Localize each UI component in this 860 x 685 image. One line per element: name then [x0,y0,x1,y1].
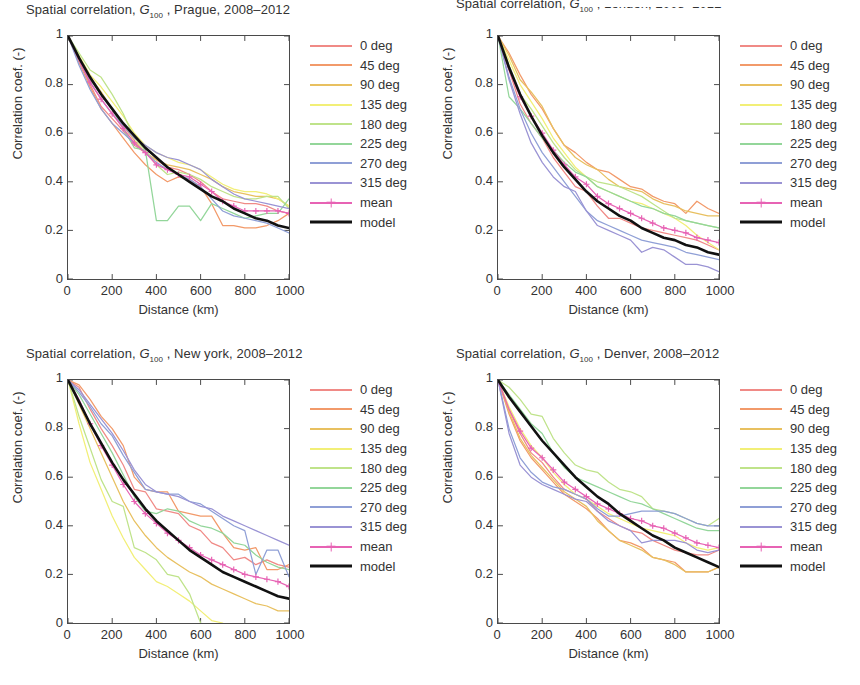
legend-swatch-icon [310,59,352,71]
chart-panel-prague: Spatial correlation, G100 , Prague, 2008… [0,0,430,342]
legend-item-270-deg[interactable]: 270 deg [310,154,430,174]
legend-item-mean[interactable]: mean [740,193,860,213]
legend-label: model [790,216,825,229]
legend-item-225-deg[interactable]: 225 deg [310,134,430,154]
x-tick-label: 1000 [276,627,305,642]
legend-label: 135 deg [360,442,407,455]
legend-swatch-icon [740,59,782,71]
legend-item-0-deg[interactable]: 0 deg [740,36,860,56]
legend-label: model [360,560,395,573]
legend-item-315-deg[interactable]: 315 deg [740,173,860,193]
legend-label: 315 deg [360,176,407,189]
y-tick-label: 0.8 [23,419,63,434]
legend-swatch-icon [740,462,782,474]
title-symbol: G [569,0,579,11]
x-tick-label: 0 [63,283,70,298]
legend-item-225-deg[interactable]: 225 deg [740,134,860,154]
legend-item-45-deg[interactable]: 45 deg [310,400,430,420]
legend-label: 0 deg [790,39,823,52]
legend-swatch-icon [310,521,352,533]
y-tick-label: 0.2 [23,222,63,237]
legend-swatch-icon [740,384,782,396]
x-tick-label: 600 [190,627,212,642]
legend-swatch-icon [310,482,352,494]
legend-item-135-deg[interactable]: 135 deg [740,95,860,115]
legend-swatch-icon [740,216,782,228]
legend-swatch-icon [740,99,782,111]
series-line-denver-3 [498,380,719,550]
y-axis-label-prague: Correlation coef. (-) [10,24,25,184]
legend-swatch-icon [310,216,352,228]
legend-label: 135 deg [360,98,407,111]
legend-item-model[interactable]: model [310,212,430,232]
legend-item-270-deg[interactable]: 270 deg [740,498,860,518]
legend-item-315-deg[interactable]: 315 deg [740,517,860,537]
legend-item-90-deg[interactable]: 90 deg [310,419,430,439]
x-axis-label-newyork: Distance (km) [67,646,290,661]
legend-swatch-icon [740,118,782,130]
legend-item-45-deg[interactable]: 45 deg [740,56,860,76]
legend-item-270-deg[interactable]: 270 deg [740,154,860,174]
legend-item-model[interactable]: model [740,556,860,576]
y-tick-label: 0.4 [453,173,493,188]
legend-item-135-deg[interactable]: 135 deg [740,439,860,459]
legend-item-90-deg[interactable]: 90 deg [740,419,860,439]
legend-item-0-deg[interactable]: 0 deg [310,36,430,56]
title-suffix: , New york, 2008–2012 [163,346,303,361]
y-tick-label: 0.8 [453,419,493,434]
legend-swatch-icon [740,521,782,533]
x-tick-label: 0 [493,627,500,642]
legend-item-45-deg[interactable]: 45 deg [740,400,860,420]
legend-swatch-icon [740,560,782,572]
plus-marker-icon [757,198,766,207]
y-tick-label: 0.2 [453,222,493,237]
legend-item-225-deg[interactable]: 225 deg [740,478,860,498]
legend-item-model[interactable]: model [310,556,430,576]
x-tick-label: 200 [531,627,553,642]
legend-item-45-deg[interactable]: 45 deg [310,56,430,76]
legend-item-model[interactable]: model [740,212,860,232]
legend-item-0-deg[interactable]: 0 deg [740,380,860,400]
series-line-denver-7 [498,380,719,553]
legend-item-315-deg[interactable]: 315 deg [310,173,430,193]
legend-item-135-deg[interactable]: 135 deg [310,439,430,459]
legend-item-180-deg[interactable]: 180 deg [310,114,430,134]
legend-label: 315 deg [790,176,837,189]
legend-swatch-icon [310,403,352,415]
legend-item-0-deg[interactable]: 0 deg [310,380,430,400]
legend-label: mean [790,196,823,209]
legend-label: 90 deg [360,78,400,91]
y-axis-ticks-newyork: 00.20.40.60.81 [18,379,63,624]
legend-item-135-deg[interactable]: 135 deg [310,95,430,115]
legend-label: model [790,560,825,573]
legend-item-mean[interactable]: mean [310,537,430,557]
legend-item-270-deg[interactable]: 270 deg [310,498,430,518]
legend-swatch-icon [740,403,782,415]
series-line-prague-0 [68,36,289,213]
legend-swatch-icon [310,443,352,455]
legend-label: mean [360,196,393,209]
series-line-prague-2 [68,36,289,206]
legend-item-90-deg[interactable]: 90 deg [310,75,430,95]
legend-label: 270 deg [360,501,407,514]
legend-item-180-deg[interactable]: 180 deg [310,458,430,478]
legend-swatch-icon [310,462,352,474]
legend-swatch-icon [740,541,782,553]
legend-item-mean[interactable]: mean [310,193,430,213]
title-subscript: 100 [580,355,593,364]
legend-label: model [360,216,395,229]
y-tick-label: 0.2 [453,566,493,581]
y-axis-ticks-london: 00.20.40.60.81 [448,35,493,280]
legend-item-mean[interactable]: mean [740,537,860,557]
series-line-london-7 [498,36,719,272]
legend-swatch-icon [740,157,782,169]
legend-item-315-deg[interactable]: 315 deg [310,517,430,537]
legend-label: 225 deg [790,481,837,494]
x-tick-label: 400 [145,283,167,298]
legend-item-225-deg[interactable]: 225 deg [310,478,430,498]
legend-item-180-deg[interactable]: 180 deg [740,458,860,478]
plot-area-prague [67,35,290,280]
legend-item-180-deg[interactable]: 180 deg [740,114,860,134]
legend-item-90-deg[interactable]: 90 deg [740,75,860,95]
y-tick-label: 0.6 [453,124,493,139]
